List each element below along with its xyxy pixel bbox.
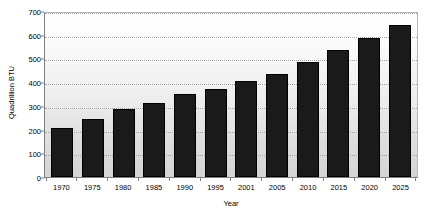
y-axis-tick-label: 600: [28, 31, 41, 40]
bar-slot: [170, 13, 201, 177]
bar[interactable]: [113, 109, 135, 177]
x-axis-tick-slot: [262, 178, 293, 182]
bar-slot: [139, 13, 170, 177]
bar-slot: [384, 13, 415, 177]
bar[interactable]: [266, 74, 288, 177]
bar-slot: [78, 13, 109, 177]
x-axis-tick-label: 2001: [231, 183, 262, 197]
x-axis-tick-slot: [200, 178, 231, 182]
bar[interactable]: [389, 25, 411, 177]
y-axis-tick-label: 400: [28, 79, 41, 88]
x-axis-tick-slot: [46, 178, 77, 182]
bar[interactable]: [205, 89, 227, 177]
x-axis-tick-slot: [354, 178, 385, 182]
bar[interactable]: [297, 62, 319, 177]
bar[interactable]: [174, 94, 196, 177]
x-axis-tick-label: 1970: [46, 183, 77, 197]
x-axis-tick-mark: [354, 178, 355, 181]
x-axis-title: Year: [44, 199, 418, 208]
bar-slot: [108, 13, 139, 177]
x-axis-tick-mark: [169, 178, 170, 181]
bar-slot: [200, 13, 231, 177]
y-axis-title-text: Quadrillion BTU: [7, 66, 16, 119]
x-axis-tick-mark: [138, 178, 139, 181]
plot-area: [44, 12, 418, 178]
x-axis-tick-label: 2015: [323, 183, 354, 197]
y-axis-title: Quadrillion BTU: [0, 0, 22, 185]
y-axis-tick-label: 200: [28, 126, 41, 135]
bar[interactable]: [327, 50, 349, 177]
x-axis-tick-mark: [76, 178, 77, 181]
x-axis-tick-label: 2020: [354, 183, 385, 197]
bar[interactable]: [235, 81, 257, 177]
bars-group: [45, 13, 417, 177]
bar-slot: [323, 13, 354, 177]
x-axis-tick-label: 1975: [77, 183, 108, 197]
x-axis-tick-label: 2025: [385, 183, 416, 197]
x-axis-tick-labels: 1970197519801985199019952001200520102015…: [44, 183, 418, 197]
x-axis-tick-slot: [138, 178, 169, 182]
x-axis-tick-mark: [46, 178, 47, 181]
bar-slot: [231, 13, 262, 177]
bar[interactable]: [358, 38, 380, 177]
x-axis-tick-slot: [108, 178, 139, 182]
x-axis-tick-slot: [385, 178, 416, 182]
x-axis-tick-slot: [77, 178, 108, 182]
bar-slot: [292, 13, 323, 177]
y-axis-tick-label: 700: [28, 8, 41, 17]
x-axis-tick-mark: [385, 178, 386, 181]
x-axis-tick-label: 2010: [293, 183, 324, 197]
bar-slot: [354, 13, 385, 177]
y-axis-tick-label: 300: [28, 102, 41, 111]
y-axis-tick-label: 500: [28, 55, 41, 64]
y-axis-tick-labels: 0100200300400500600700: [22, 12, 44, 178]
x-axis-tick-mark: [261, 178, 262, 181]
x-axis-tick-mark: [107, 178, 108, 181]
x-axis-tick-mark: [415, 178, 416, 181]
bar-chart: Quadrillion BTU 0100200300400500600700 1…: [0, 0, 437, 221]
x-axis-tick-slot: [323, 178, 354, 182]
x-axis-tick-label: 1980: [108, 183, 139, 197]
bar-slot: [262, 13, 293, 177]
x-axis-tick-label: 1990: [169, 183, 200, 197]
bar[interactable]: [51, 128, 73, 177]
x-axis-tick-marks: [44, 178, 418, 182]
x-axis-tick-label: 1995: [200, 183, 231, 197]
x-axis-tick-slot: [231, 178, 262, 182]
bar[interactable]: [82, 119, 104, 177]
x-axis-tick-mark: [230, 178, 231, 181]
y-axis-tick-label: 100: [28, 150, 41, 159]
x-axis-tick-slot: [293, 178, 324, 182]
x-axis-tick-mark: [323, 178, 324, 181]
x-axis-tick-mark: [200, 178, 201, 181]
x-axis-tick-label: 1985: [138, 183, 169, 197]
x-axis-tick-slot: [169, 178, 200, 182]
x-axis-tick-label: 2005: [262, 183, 293, 197]
bar-slot: [47, 13, 78, 177]
bar[interactable]: [143, 103, 165, 177]
x-axis-tick-mark: [292, 178, 293, 181]
